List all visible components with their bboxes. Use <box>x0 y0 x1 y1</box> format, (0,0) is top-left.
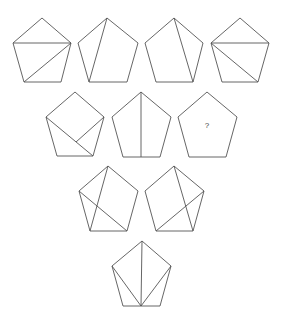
diagonal-line <box>90 166 108 231</box>
pentagon-outline <box>112 92 171 157</box>
pentagon-p2 <box>78 18 138 82</box>
pentagon-outline <box>145 18 203 82</box>
diagonal-line <box>76 117 104 142</box>
diagonal-line <box>79 191 127 231</box>
pentagon-p10 <box>112 241 171 306</box>
diagonal-line <box>141 241 142 306</box>
pentagon-p4 <box>211 18 269 82</box>
diagonal-line <box>174 166 193 231</box>
diagonal-line <box>156 191 204 231</box>
pentagon-puzzle-diagram: ? <box>0 0 285 315</box>
pentagon-p9 <box>145 166 204 231</box>
question-mark: ? <box>205 121 210 130</box>
diagonal-line <box>141 266 171 306</box>
pentagon-p5 <box>46 92 104 156</box>
pentagon-p8 <box>79 166 138 231</box>
pentagon-p6 <box>112 92 171 157</box>
diagonal-line <box>24 43 71 82</box>
pentagon-p1 <box>13 18 71 82</box>
pentagon-outline <box>78 18 138 82</box>
diagonal-line <box>174 18 193 82</box>
diagonal-line <box>46 117 93 156</box>
pentagon-group <box>13 18 269 306</box>
pentagon-p3 <box>145 18 203 82</box>
diagonal-line <box>112 266 141 306</box>
diagonal-line <box>89 18 107 82</box>
diagonal-line <box>211 43 258 82</box>
